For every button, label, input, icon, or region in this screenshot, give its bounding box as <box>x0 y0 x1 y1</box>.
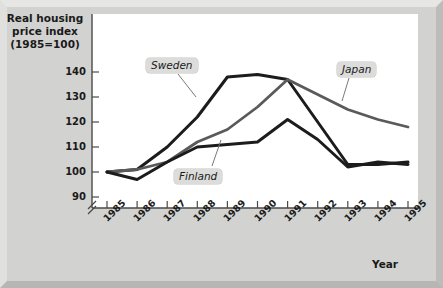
chart-figure: Real housing price index (1985=100) Year… <box>0 0 443 288</box>
series-label-sweden: Sweden <box>146 58 198 73</box>
leader-line-sweden <box>178 74 196 97</box>
y-tick-label: 100 <box>52 166 86 177</box>
tick-marks <box>92 72 408 208</box>
label-leader-lines <box>178 74 349 166</box>
axes-group <box>88 14 418 214</box>
series-line-sweden <box>107 75 408 173</box>
series-label-japan: Japan <box>337 62 376 77</box>
y-tick-label: 140 <box>52 66 86 77</box>
data-series-lines <box>107 75 408 180</box>
y-tick-label: 120 <box>52 116 86 127</box>
y-tick-label: 110 <box>52 141 86 152</box>
y-axis-title: Real housing price index (1985=100) <box>2 12 88 51</box>
y-tick-label: 90 <box>52 191 86 202</box>
series-line-finland <box>107 120 408 180</box>
leader-line-finland <box>212 140 221 166</box>
x-axis-title: Year <box>372 258 398 270</box>
y-tick-label: 130 <box>52 91 86 102</box>
leader-line-japan <box>342 78 349 101</box>
series-label-finland: Finland <box>174 169 222 184</box>
